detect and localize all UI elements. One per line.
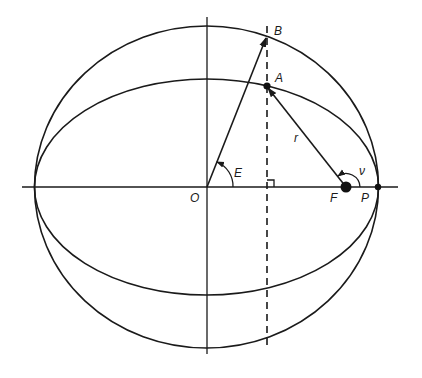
vector-O-to-B: [207, 38, 266, 187]
focus-F: [341, 182, 352, 193]
label-B: B: [274, 24, 282, 38]
label-r: r: [294, 131, 299, 145]
label-P: P: [361, 191, 369, 205]
label-E: E: [234, 166, 243, 180]
angle-E-arc: [217, 162, 233, 187]
vector-F-to-A: [268, 88, 346, 187]
label-F: F: [330, 191, 338, 205]
point-A: [263, 82, 270, 89]
label-O: O: [190, 191, 199, 205]
point-P: [375, 184, 381, 190]
label-nu: ν: [359, 164, 365, 178]
right-angle-marker: [267, 180, 274, 187]
label-A: A: [274, 71, 283, 85]
orbit-diagram: B A r E O F P ν: [0, 0, 422, 378]
